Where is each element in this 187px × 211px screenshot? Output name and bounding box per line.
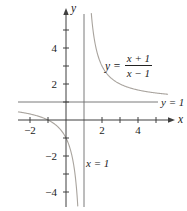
y-axis-arrow-icon xyxy=(63,8,68,15)
x-axis-letter: x xyxy=(178,113,183,126)
function-graph-figure: −224−4−224 y x y = x + 1 x − 1 y = 1 x =… xyxy=(0,0,187,211)
equation-lhs: y = xyxy=(105,60,121,72)
y-tick-label: 2 xyxy=(52,78,58,90)
equation-fraction: x + 1 x − 1 xyxy=(125,52,152,79)
x-tick-label: −2 xyxy=(24,124,36,136)
function-equation-label: y = x + 1 x − 1 xyxy=(105,52,152,79)
y-axis-letter: y xyxy=(71,2,76,15)
horizontal-asymptote-label: y = 1 xyxy=(161,96,184,108)
y-tick-label: 4 xyxy=(52,42,58,54)
x-axis-arrow-icon xyxy=(168,117,175,122)
plot-svg: −224−4−224 xyxy=(0,0,187,211)
x-tick-label: 4 xyxy=(135,124,141,136)
equation-denominator: x − 1 xyxy=(125,65,152,79)
equation-numerator: x + 1 xyxy=(125,52,152,65)
y-tick-label: −4 xyxy=(45,186,57,198)
y-tick-label: −2 xyxy=(45,150,57,162)
vertical-asymptote-label: x = 1 xyxy=(86,157,109,169)
x-tick-label: 2 xyxy=(99,124,105,136)
